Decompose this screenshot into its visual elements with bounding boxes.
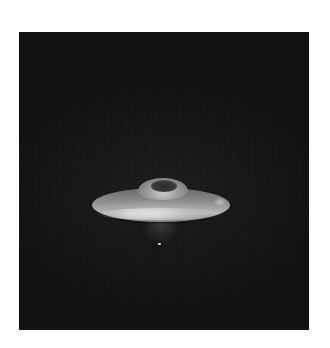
dome-hollow bbox=[151, 180, 177, 192]
light-speck bbox=[158, 243, 161, 245]
rim-glint bbox=[214, 198, 226, 206]
photograph bbox=[19, 32, 309, 330]
saucer-rim-highlight bbox=[97, 208, 225, 220]
